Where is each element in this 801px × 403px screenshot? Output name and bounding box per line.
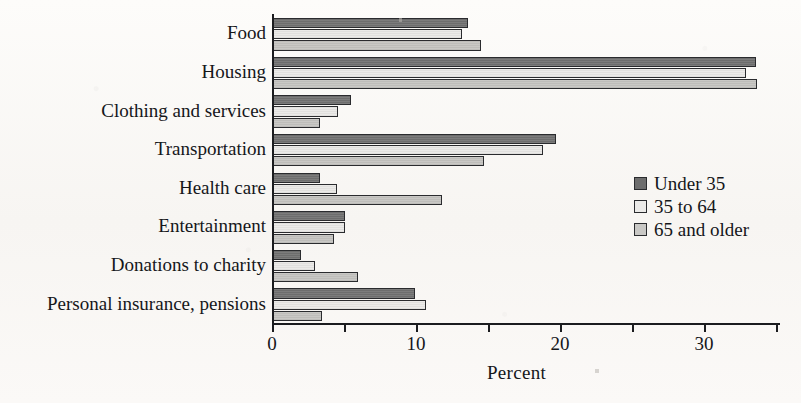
x-axis-tick-label: 20 xyxy=(551,333,570,354)
category-label: Health care xyxy=(0,178,266,197)
bar xyxy=(272,40,481,50)
scan-speck xyxy=(399,18,402,22)
legend-label: Under 35 xyxy=(654,172,725,195)
y-axis-line xyxy=(272,14,274,323)
bar xyxy=(272,300,426,310)
x-axis-tick-label: 30 xyxy=(695,333,714,354)
bar xyxy=(272,134,556,144)
legend-item: Under 35 xyxy=(634,172,749,195)
bar xyxy=(272,250,301,260)
bar xyxy=(272,288,415,298)
bar xyxy=(272,261,315,271)
bar-chart: FoodHousingClothing and servicesTranspor… xyxy=(0,0,801,403)
legend: Under 3535 to 6465 and older xyxy=(634,172,749,241)
bar xyxy=(272,211,345,221)
x-axis-tick xyxy=(776,325,778,332)
x-axis-tick xyxy=(632,325,634,332)
bar xyxy=(272,184,337,194)
bar xyxy=(272,79,757,89)
x-axis-tick xyxy=(560,325,562,332)
bar xyxy=(272,173,320,183)
legend-swatch xyxy=(634,177,647,190)
x-axis-tick xyxy=(416,325,418,332)
category-label: Donations to charity xyxy=(0,255,266,274)
bar xyxy=(272,18,468,28)
legend-swatch xyxy=(634,200,647,213)
bar xyxy=(272,195,442,205)
legend-item: 65 and older xyxy=(634,218,749,241)
x-axis-tick xyxy=(488,325,490,332)
legend-label: 35 to 64 xyxy=(654,195,716,218)
bar xyxy=(272,29,462,39)
bar xyxy=(272,95,351,105)
x-axis-tick xyxy=(272,325,274,332)
bar xyxy=(272,145,543,155)
bar xyxy=(272,68,746,78)
x-axis-tick xyxy=(344,325,346,332)
scan-speck xyxy=(595,369,599,373)
bar xyxy=(272,234,334,244)
x-axis-tick xyxy=(704,325,706,332)
bar xyxy=(272,118,320,128)
category-label: Clothing and services xyxy=(0,101,266,120)
bar xyxy=(272,156,484,166)
bar xyxy=(272,57,756,67)
legend-label: 65 and older xyxy=(654,218,749,241)
category-label: Housing xyxy=(0,62,266,81)
bar xyxy=(272,272,358,282)
x-axis-title: Percent xyxy=(0,362,801,384)
x-axis-tick-label: 0 xyxy=(267,333,277,354)
bar xyxy=(272,311,322,321)
category-label: Food xyxy=(0,23,266,42)
category-label: Personal insurance, pensions xyxy=(0,294,266,313)
bar xyxy=(272,106,338,116)
category-label: Transportation xyxy=(0,139,266,158)
plot-area xyxy=(272,14,776,323)
legend-item: 35 to 64 xyxy=(634,195,749,218)
x-axis-title-text: Percent xyxy=(487,362,546,383)
category-label: Entertainment xyxy=(0,216,266,235)
bar xyxy=(272,222,345,232)
legend-swatch xyxy=(634,223,647,236)
x-axis-tick-label: 10 xyxy=(407,333,426,354)
